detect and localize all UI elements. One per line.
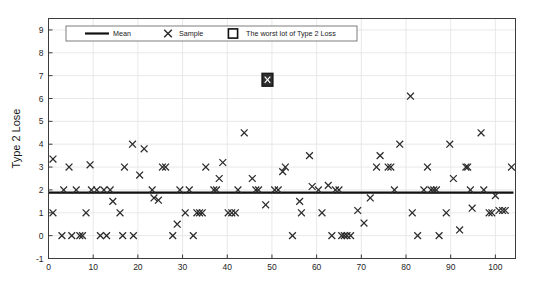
sample-point — [249, 175, 256, 182]
sample-point — [478, 129, 485, 136]
plot-frame — [49, 19, 516, 259]
sample-point — [309, 183, 316, 190]
y-tick-label: 0 — [39, 231, 44, 241]
y-tick-label: 1 — [39, 208, 44, 218]
sample-point — [367, 195, 374, 202]
y-tick-label: 8 — [39, 48, 44, 58]
grid-lines — [49, 19, 516, 259]
sample-point — [306, 152, 313, 159]
sample-point — [136, 172, 143, 179]
x-tick-label: 40 — [223, 262, 233, 272]
sample-point — [141, 145, 148, 152]
sample-point — [456, 227, 463, 234]
y-tick-label: 5 — [39, 116, 44, 126]
x-tick-label: 90 — [446, 262, 456, 272]
legend-label-worst-lot: The worst lot of Type 2 Loss — [246, 29, 336, 38]
y-axis-title: Type 2 Lose — [10, 109, 22, 169]
x-tick-label: 30 — [178, 262, 188, 272]
axes-frame — [49, 19, 516, 259]
x-tick-label: 50 — [267, 262, 277, 272]
sample-point — [377, 152, 384, 159]
y-tick-label: 7 — [39, 71, 44, 81]
x-tick-label: 70 — [357, 262, 367, 272]
sample-point — [325, 182, 332, 189]
y-tick-label: 4 — [39, 139, 44, 149]
x-tick-label: 0 — [46, 262, 51, 272]
y-tick-label: 3 — [39, 162, 44, 172]
legend-label-sample: Sample — [179, 29, 203, 38]
type-2-lose-scatter-chart: 0102030405060708090100-10123456789 Type … — [0, 0, 538, 293]
y-tick-label: -1 — [36, 254, 44, 264]
y-tick-label: 9 — [39, 25, 44, 35]
chart-figure: 0102030405060708090100-10123456789 Type … — [0, 0, 538, 293]
x-tick-label: 80 — [401, 262, 411, 272]
worst-lot-marker — [262, 73, 273, 86]
x-tick-label: 60 — [312, 262, 322, 272]
legend-worst-swatch — [228, 29, 237, 38]
sample-point — [296, 198, 303, 205]
x-tick-label: 20 — [133, 262, 143, 272]
sample-point — [50, 156, 57, 163]
sample-point — [219, 159, 226, 166]
sample-point — [262, 201, 269, 208]
sample-point — [109, 198, 116, 205]
x-tick-label: 100 — [488, 262, 502, 272]
sample-point — [174, 221, 181, 228]
chart-legend[interactable]: MeanSampleThe worst lot of Type 2 Loss — [66, 26, 357, 41]
y-axis-label: Type 2 Lose — [10, 109, 22, 169]
sample-points — [50, 93, 515, 239]
sample-point — [469, 205, 476, 212]
sample-point — [241, 129, 248, 136]
x-tick-label: 10 — [88, 262, 98, 272]
y-tick-label: 6 — [39, 94, 44, 104]
sample-point — [216, 175, 223, 182]
legend-label-mean: Mean — [113, 29, 131, 38]
y-tick-label: 2 — [39, 185, 44, 195]
